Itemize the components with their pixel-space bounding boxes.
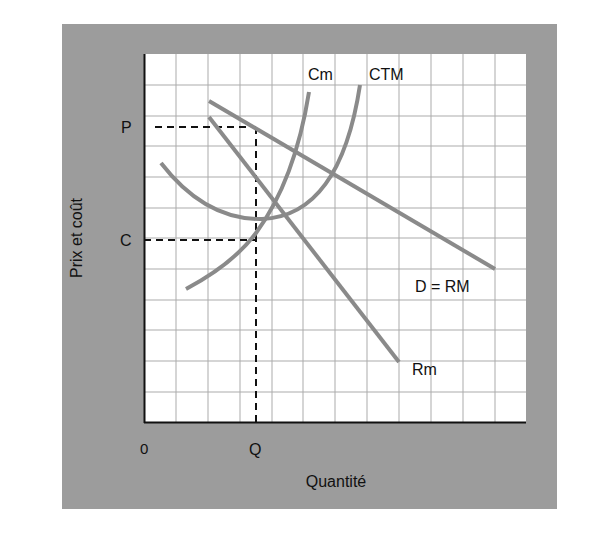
chart-svg: Cm CTM D = RM Rm P C 0 Q Quantité Prix e… bbox=[0, 0, 589, 540]
cm-label: Cm bbox=[308, 66, 333, 83]
cost-tick-label: C bbox=[120, 232, 132, 249]
demand-label: D = RM bbox=[415, 278, 470, 295]
quantity-tick-label: Q bbox=[249, 441, 261, 458]
origin-label: 0 bbox=[140, 440, 148, 457]
rm-label: Rm bbox=[412, 361, 437, 378]
x-axis-title: Quantité bbox=[306, 473, 367, 490]
price-tick-label: P bbox=[121, 119, 132, 136]
y-axis-title: Prix et coût bbox=[68, 197, 85, 278]
ctm-label: CTM bbox=[369, 66, 404, 83]
